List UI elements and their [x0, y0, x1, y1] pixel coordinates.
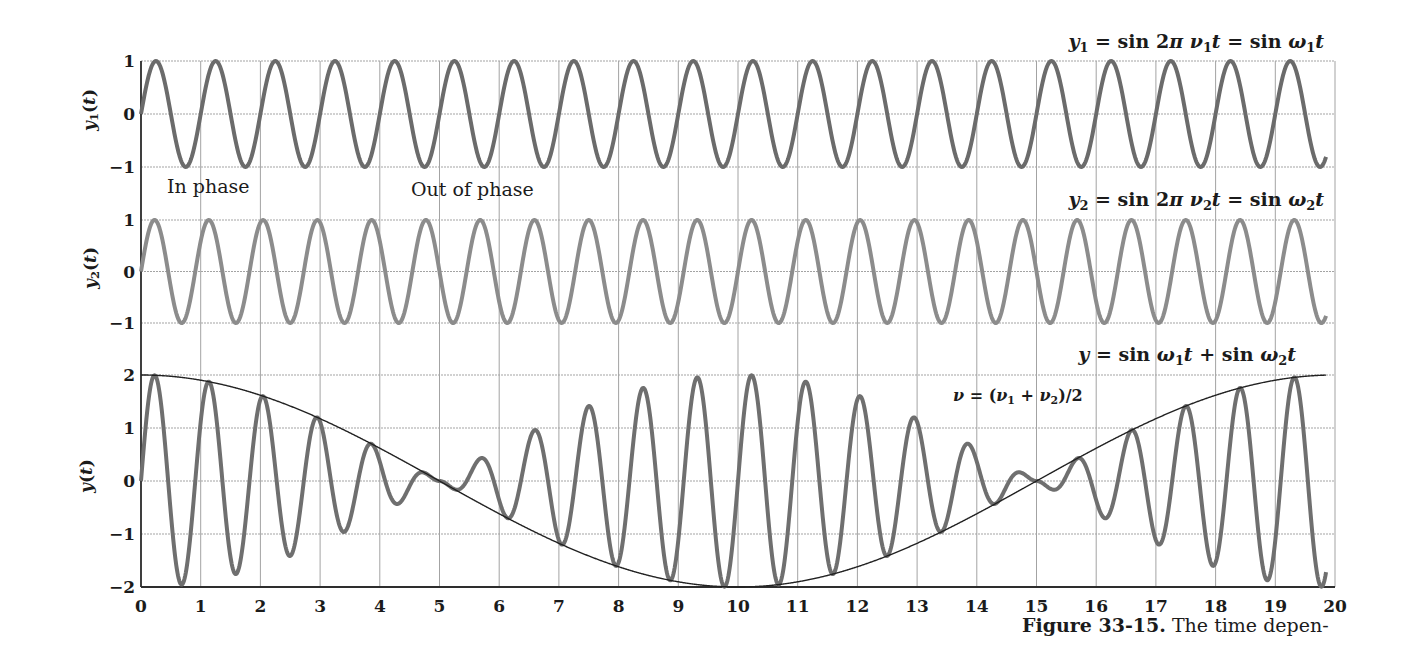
y2-equation-label: y2 = sin 2π ν2t = sin ω2t [1068, 190, 1324, 209]
y-y-tick-label: −1 [95, 524, 135, 544]
x-tick-label: 11 [786, 596, 810, 616]
y1-equation-label: y1 = sin 2π ν1t = sin ω1t [1068, 32, 1324, 51]
x-tick-label: 6 [493, 596, 505, 616]
y1-y-tick-label: −1 [95, 157, 135, 177]
x-tick-label: 4 [374, 596, 386, 616]
x-tick-label: 17 [1144, 596, 1168, 616]
x-tick-label: 5 [434, 596, 446, 616]
x-tick-label: 15 [1025, 596, 1049, 616]
sum-equation-label: y = sin ω1t + sin ω2t [1078, 345, 1296, 364]
x-tick-label: 19 [1263, 596, 1287, 616]
x-tick-label: 14 [965, 596, 989, 616]
y2-y-tick-label: −1 [95, 313, 135, 333]
grid [141, 61, 1335, 587]
plot-area [0, 0, 1403, 648]
y2-axis-title: y2(t) [82, 247, 99, 289]
x-tick-label: 13 [905, 596, 929, 616]
x-tick-label: 10 [726, 596, 750, 616]
y-y-tick-label: 0 [95, 471, 135, 491]
curves [141, 61, 1326, 587]
x-tick-label: 3 [314, 596, 326, 616]
y-y-tick-label: −2 [95, 577, 135, 597]
x-tick-label: 7 [553, 596, 565, 616]
x-tick-label: 20 [1323, 596, 1347, 616]
x-tick-label: 9 [672, 596, 684, 616]
y2-y-tick-label: 1 [95, 210, 135, 230]
mean-frequency-label: ν = (ν1 + ν2)/2 [953, 388, 1083, 404]
y1-y-tick-label: 1 [95, 51, 135, 71]
x-tick-label: 8 [613, 596, 625, 616]
y-y-tick-label: 2 [95, 365, 135, 385]
caption-text: The time depen- [1166, 614, 1329, 636]
x-tick-label: 16 [1084, 596, 1108, 616]
y-axis-title: y(t) [78, 459, 95, 493]
x-tick-label: 18 [1204, 596, 1228, 616]
out-of-phase-annotation: Out of phase [411, 180, 534, 199]
figure-caption: Figure 33-15. The time depen- [1022, 616, 1329, 635]
caption-label: Figure 33-15. [1022, 614, 1166, 636]
x-tick-label: 1 [195, 596, 207, 616]
x-tick-label: 2 [254, 596, 266, 616]
x-tick-label: 0 [135, 596, 147, 616]
y-y-tick-label: 1 [95, 418, 135, 438]
in-phase-annotation: In phase [167, 177, 250, 196]
beats-figure: 0123456789101112131415161718192010−110−1… [0, 0, 1403, 648]
x-tick-label: 12 [846, 596, 870, 616]
y1-axis-title: y1(t) [81, 89, 98, 131]
